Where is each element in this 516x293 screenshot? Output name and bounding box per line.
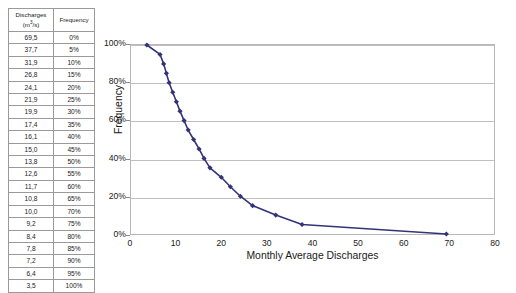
table-row: 9,275% (9, 218, 95, 230)
cell-discharge: 9,2 (9, 218, 54, 230)
table-row: 15,045% (9, 143, 95, 155)
cell-frequency: 100% (54, 280, 95, 292)
cell-frequency: 0% (54, 32, 95, 44)
cell-frequency: 10% (54, 56, 95, 68)
x-axis-tick-label: 0 (115, 238, 145, 248)
series-line-chart (131, 45, 494, 234)
cell-discharge: 7,8 (9, 242, 54, 254)
cell-discharge: 8,4 (9, 230, 54, 242)
table-row: 37,75% (9, 44, 95, 56)
series-markers (144, 42, 449, 236)
series-data-point (164, 71, 169, 76)
y-axis-tick-label: 40% (96, 154, 126, 163)
series-data-point (161, 61, 166, 66)
table-row: 11,760% (9, 180, 95, 192)
cell-frequency: 75% (54, 218, 95, 230)
cell-frequency: 55% (54, 168, 95, 180)
series-data-point (299, 222, 304, 227)
cell-frequency: 80% (54, 230, 95, 242)
cell-frequency: 95% (54, 267, 95, 279)
table-row: 10,865% (9, 193, 95, 205)
cell-discharge: 3,5 (9, 280, 54, 292)
table-row: 31,910% (9, 56, 95, 68)
column-header-discharges-unit-prefix: (m (23, 21, 30, 28)
cell-frequency: 5% (54, 44, 95, 56)
table-row: 3,5100% (9, 280, 95, 292)
cell-discharge: 17,4 (9, 118, 54, 130)
cell-frequency: 50% (54, 156, 95, 168)
table-row: 21,925% (9, 94, 95, 106)
cell-discharge: 19,9 (9, 106, 54, 118)
discharge-frequency-table-container: Discharges (m3/s) Frequency 69,50%37,75%… (8, 8, 92, 293)
series-data-point (170, 90, 175, 95)
cell-discharge: 6,4 (9, 267, 54, 279)
table-row: 16,140% (9, 131, 95, 143)
series-data-point (182, 118, 187, 123)
cell-frequency: 25% (54, 94, 95, 106)
y-axis-tick-mark (126, 235, 130, 236)
x-axis-tick-label: 50 (343, 238, 373, 248)
table-body: 69,50%37,75%31,910%26,815%24,120%21,925%… (9, 32, 95, 293)
table-row: 26,815% (9, 69, 95, 81)
y-axis-tick-label: 100% (96, 39, 126, 48)
cell-frequency: 85% (54, 242, 95, 254)
cell-frequency: 15% (54, 69, 95, 81)
table-row: 17,435% (9, 118, 95, 130)
table-row: 8,480% (9, 230, 95, 242)
cell-frequency: 70% (54, 205, 95, 217)
cell-frequency: 20% (54, 81, 95, 93)
cell-discharge: 31,9 (9, 56, 54, 68)
x-axis-tick-label: 10 (161, 238, 191, 248)
x-axis-tick-label: 70 (434, 238, 464, 248)
cell-discharge: 24,1 (9, 81, 54, 93)
table-row: 7,290% (9, 255, 95, 267)
cell-discharge: 69,5 (9, 32, 54, 44)
cell-frequency: 45% (54, 143, 95, 155)
cell-frequency: 35% (54, 118, 95, 130)
series-data-point (174, 99, 179, 104)
column-header-discharges: Discharges (m3/s) (9, 9, 54, 32)
y-axis-title: Frequency (113, 50, 124, 170)
series-data-point (273, 213, 278, 218)
cell-frequency: 60% (54, 180, 95, 192)
cell-discharge: 12,6 (9, 168, 54, 180)
series-data-point (444, 231, 449, 236)
flow-duration-chart: Frequency 0%20%40%60%80%100% 01020304050… (96, 8, 508, 280)
cell-discharge: 16,1 (9, 131, 54, 143)
table-header-row: Discharges (m3/s) Frequency (9, 9, 95, 32)
cell-frequency: 40% (54, 131, 95, 143)
cell-discharge: 11,7 (9, 180, 54, 192)
cell-discharge: 7,2 (9, 255, 54, 267)
cell-frequency: 65% (54, 193, 95, 205)
y-axis-tick-label: 80% (96, 77, 126, 86)
cell-discharge: 13,8 (9, 156, 54, 168)
cell-discharge: 10,8 (9, 193, 54, 205)
x-axis-tick-label: 80 (480, 238, 510, 248)
table-row: 7,885% (9, 242, 95, 254)
x-axis-tick-label: 60 (389, 238, 419, 248)
column-header-frequency: Frequency (54, 9, 95, 32)
plot-area (130, 44, 495, 235)
y-axis-tick-label: 60% (96, 115, 126, 124)
cell-discharge: 21,9 (9, 94, 54, 106)
cell-discharge: 37,7 (9, 44, 54, 56)
table-header: Discharges (m3/s) Frequency (9, 9, 95, 32)
table-row: 12,655% (9, 168, 95, 180)
series-data-point (177, 109, 182, 114)
discharge-frequency-table: Discharges (m3/s) Frequency 69,50%37,75%… (8, 8, 95, 293)
column-header-discharges-label: Discharges (16, 11, 47, 18)
table-row: 6,495% (9, 267, 95, 279)
table-row: 10,070% (9, 205, 95, 217)
cell-discharge: 26,8 (9, 69, 54, 81)
x-axis-tick-label: 20 (206, 238, 236, 248)
table-row: 69,50% (9, 32, 95, 44)
table-row: 24,120% (9, 81, 95, 93)
y-axis-tick-label: 20% (96, 192, 126, 201)
column-header-discharges-unit-suffix: /s) (32, 21, 39, 28)
x-axis-tick-label: 30 (252, 238, 282, 248)
table-row: 13,850% (9, 156, 95, 168)
cell-frequency: 90% (54, 255, 95, 267)
series-data-point (167, 80, 172, 85)
cell-frequency: 30% (54, 106, 95, 118)
x-axis-title: Monthly Average Discharges (130, 250, 495, 261)
